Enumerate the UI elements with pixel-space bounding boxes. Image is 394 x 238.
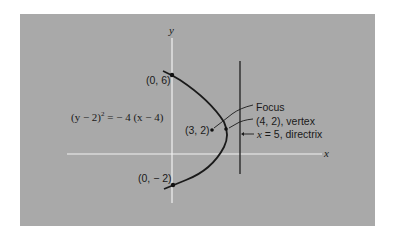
equation-rhs: = − 4 (x − 4) [105, 111, 164, 124]
label-3-2: (3, 2) [185, 124, 210, 136]
parabola-figure: x y (0, 6) (0, − 2) (3, 2) (y − 2)2 = − … [0, 0, 394, 238]
label-0-6: (0, 6) [146, 74, 171, 86]
x-axis-label: x [323, 147, 329, 159]
vertex-point [224, 127, 228, 131]
label-0-neg2: (0, − 2) [138, 172, 172, 184]
equation-lhs: (y − 2) [71, 111, 101, 124]
focus-annotation: Focus [256, 101, 285, 113]
y-axis-label: y [168, 24, 174, 36]
equation-label: (y − 2)2 = − 4 (x − 4) [71, 110, 164, 124]
directrix-annotation: x = 5, directrix [256, 128, 323, 140]
focus-point [210, 128, 214, 132]
directrix-rest: = 5, directrix [262, 128, 323, 140]
vertex-annotation: (4, 2), vertex [256, 115, 316, 127]
